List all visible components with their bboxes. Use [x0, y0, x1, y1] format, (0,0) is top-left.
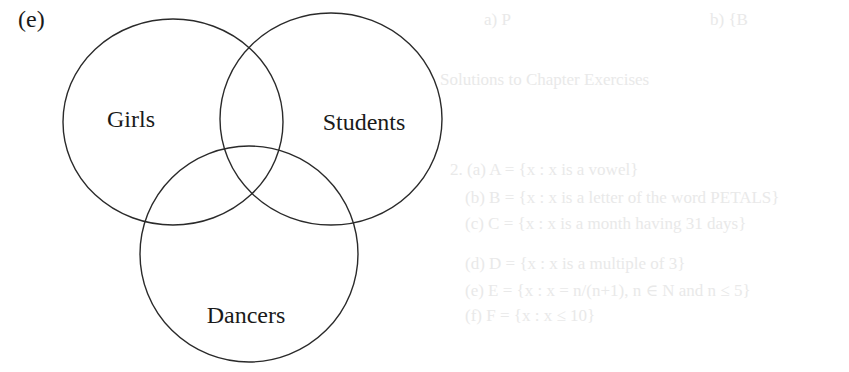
- circle-dancers: [140, 146, 358, 362]
- label-girls: Girls: [107, 106, 155, 132]
- label-dancers: Dancers: [207, 302, 286, 328]
- label-students: Students: [323, 109, 406, 135]
- circle-girls: [63, 19, 283, 225]
- venn-diagram: Girls Students Dancers: [0, 0, 849, 372]
